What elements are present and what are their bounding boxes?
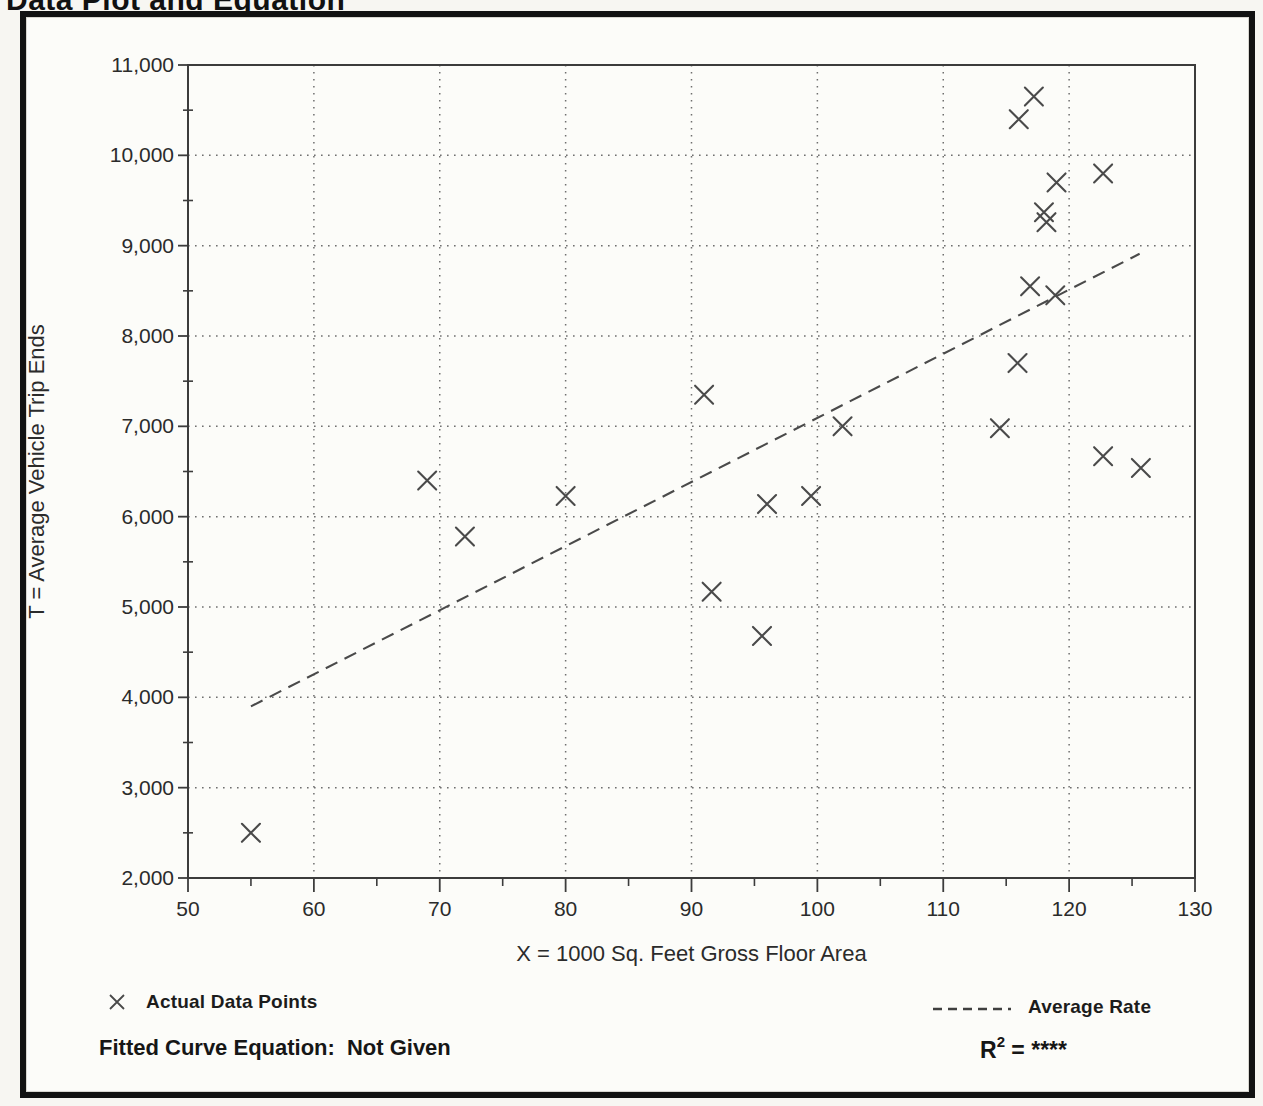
y-tick-label: 3,000 (121, 776, 174, 799)
legend-actual-data-points: Actual Data Points (108, 991, 317, 1013)
data-point-marker (1046, 286, 1064, 304)
legend-points-label: Actual Data Points (146, 991, 317, 1013)
data-point-marker (834, 417, 852, 435)
x-tick-label: 130 (1177, 897, 1212, 920)
data-point-marker (1094, 447, 1112, 465)
x-tick-label: 80 (554, 897, 577, 920)
r-squared-value: = **** (1005, 1037, 1067, 1063)
data-point-marker (1010, 110, 1028, 128)
y-tick-label: 9,000 (121, 234, 174, 257)
data-point-marker (753, 627, 771, 645)
x-tick-label: 90 (680, 897, 703, 920)
x-tick-label: 120 (1052, 897, 1087, 920)
data-point-marker (456, 528, 474, 546)
y-axis-title: T = Average Vehicle Trip Ends (24, 324, 49, 619)
legend-average-rate: Average Rate (933, 996, 1151, 1018)
data-point-marker (695, 386, 713, 404)
data-point-marker (758, 495, 776, 513)
y-tick-label: 7,000 (121, 414, 174, 437)
data-point-marker (991, 419, 1009, 437)
x-tick-label: 70 (428, 897, 451, 920)
r-squared-annotation: R2 = **** (980, 1035, 1067, 1064)
data-point-marker (242, 824, 260, 842)
fitted-curve-equation: Fitted Curve Equation:Not Given (99, 1035, 451, 1061)
x-axis-title: X = 1000 Sq. Feet Gross Floor Area (516, 941, 867, 966)
x-tick-label: 100 (800, 897, 835, 920)
data-point-marker (802, 487, 820, 505)
equation-label: Fitted Curve Equation: (99, 1035, 335, 1060)
y-tick-label: 6,000 (121, 505, 174, 528)
dashed-line-icon (933, 1006, 1011, 1012)
scatter-chart: 50607080901001101201302,0003,0004,0005,0… (0, 0, 1263, 1106)
y-tick-label: 4,000 (121, 685, 174, 708)
equation-value: Not Given (347, 1035, 451, 1060)
average-rate-line (251, 254, 1140, 707)
data-point-marker (1021, 277, 1039, 295)
y-tick-label: 2,000 (121, 866, 174, 889)
y-tick-label: 5,000 (121, 595, 174, 618)
data-point-marker (1025, 88, 1043, 106)
x-tick-label: 60 (302, 897, 325, 920)
x-tick-label: 110 (927, 897, 960, 920)
y-tick-label: 8,000 (121, 324, 174, 347)
y-tick-label: 10,000 (110, 143, 174, 166)
r-squared-exponent: 2 (997, 1033, 1005, 1050)
y-tick-label: 11,000 (111, 53, 174, 76)
data-point-marker (418, 472, 436, 490)
data-point-marker (1132, 459, 1150, 477)
legend-rate-label: Average Rate (1028, 996, 1151, 1018)
x-tick-label: 50 (176, 897, 199, 920)
x-marker-icon (108, 993, 126, 1011)
data-point-marker (1094, 164, 1112, 182)
data-point-marker (703, 583, 721, 601)
data-point-marker (557, 487, 575, 505)
r-squared-base: R (980, 1037, 997, 1063)
data-point-marker (1009, 354, 1027, 372)
data-point-marker (1048, 173, 1066, 191)
